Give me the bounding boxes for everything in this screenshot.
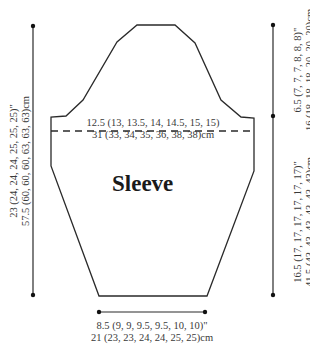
sleeve-outline (51, 25, 254, 296)
cuff-width-cm: 21 (23, 23, 24, 24, 25, 25)cm (62, 332, 242, 344)
cuff-width-inches: 8.5 (9, 9, 9.5, 9.5, 10, 10)" (62, 320, 242, 332)
sleeve-title: Sleeve (112, 171, 173, 197)
cuff-width-measure-line (97, 310, 207, 314)
sleeve-length-label: 23 (24, 24, 24, 25, 25, 25)" 57.5 (60, 6… (8, 71, 34, 251)
cap-height-label: 6.5 (7, 7, 7, 8, 8, 8)" 16 (18, 18, 18, … (292, 5, 310, 135)
cap-height-cm: 16 (18, 18, 18, 20, 20, 20)cm (304, 5, 310, 135)
cap-height-inches: 6.5 (7, 7, 7, 8, 8, 8)" (292, 5, 304, 135)
sleeve-length-inches: 23 (24, 24, 24, 25, 25, 25)" (8, 71, 20, 251)
upper-arm-width-cm: 31 (33, 34, 35, 36, 38, 38)cm (92, 129, 214, 141)
underarm-length-cm: 41.5 (43, 43, 43, 43, 43, 43)cm (304, 134, 310, 310)
upper-arm-width-label: 12.5 (13, 13.5, 14, 14.5, 15, 15) 31 (33… (52, 117, 254, 141)
underarm-length-label: 16.5 (17, 17, 17, 17, 17, 17)" 41.5 (43,… (292, 134, 310, 310)
underarm-length-inches: 16.5 (17, 17, 17, 17, 17, 17)" (292, 134, 304, 310)
sleeve-length-cm: 57.5 (60, 60, 60, 63, 63, 63)cm (20, 71, 32, 251)
cuff-width-label: 8.5 (9, 9, 9.5, 9.5, 10, 10)" 21 (23, 23… (62, 320, 242, 344)
right-measure-line (271, 23, 275, 297)
upper-arm-width-inches: 12.5 (13, 13.5, 14, 14.5, 15, 15) (86, 117, 221, 129)
